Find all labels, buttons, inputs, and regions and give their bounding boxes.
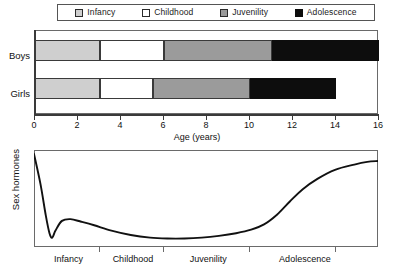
legend-swatch-adolescence bbox=[295, 9, 303, 17]
bar-segment-adolescence-boys bbox=[272, 40, 380, 61]
table-row bbox=[35, 78, 378, 99]
bar-x-axis-title: Age (years) bbox=[0, 132, 394, 142]
bar-x-tick-label: 2 bbox=[74, 120, 79, 130]
legend-item-infancy: Infancy bbox=[75, 8, 115, 17]
curve-stage-label-adolescence: Adolescence bbox=[279, 254, 331, 264]
legend-item-adolescence: Adolescence bbox=[295, 8, 357, 17]
bar-x-tick-label: 10 bbox=[244, 120, 254, 130]
legend-swatch-infancy bbox=[75, 9, 83, 17]
bar-x-tick-label: 14 bbox=[330, 120, 340, 130]
bar-segment-adolescence-girls bbox=[250, 78, 336, 99]
legend-label-juvenility: Juvenility bbox=[232, 8, 268, 17]
legend-label-childhood: Childhood bbox=[154, 8, 193, 17]
legend-item-childhood: Childhood bbox=[142, 8, 193, 17]
table-row bbox=[35, 40, 378, 61]
bar-segment-infancy-girls bbox=[35, 78, 100, 99]
curve-stage-label-infancy: Infancy bbox=[54, 254, 83, 264]
bar-segment-childhood-boys bbox=[100, 40, 165, 61]
bar-x-tick-label: 16 bbox=[373, 120, 383, 130]
curve-stage-label-childhood: Childhood bbox=[113, 254, 154, 264]
bar-x-tick-label: 12 bbox=[287, 120, 297, 130]
sex-hormone-line-chart: Sex hormones InfancyChildhoodJuvenilityA… bbox=[0, 148, 394, 273]
curve-stage-tick bbox=[335, 247, 336, 252]
curve-stage-tick bbox=[163, 247, 164, 252]
curve-y-axis-title: Sex hormones bbox=[10, 137, 21, 223]
curve-svg bbox=[34, 150, 378, 247]
hormone-curve-path bbox=[34, 154, 378, 239]
bar-segment-juvenility-girls bbox=[153, 78, 250, 99]
curve-stage-label-juvenility: Juvenility bbox=[190, 254, 227, 264]
life-stage-bar-chart: Boys Girls 0246810121416 Age (years) bbox=[0, 26, 394, 140]
curve-stage-tick bbox=[249, 247, 250, 252]
bar-category-label-boys: Boys bbox=[0, 50, 30, 61]
legend-label-adolescence: Adolescence bbox=[307, 8, 357, 17]
bar-segment-childhood-girls bbox=[100, 78, 154, 99]
bar-x-tick-label: 0 bbox=[31, 120, 36, 130]
bar-x-tick-label: 4 bbox=[117, 120, 122, 130]
bar-x-tick-label: 8 bbox=[203, 120, 208, 130]
chart-legend: Infancy Childhood Juvenility Adolescence bbox=[57, 4, 375, 21]
figure-root: Infancy Childhood Juvenility Adolescence… bbox=[0, 0, 394, 273]
legend-swatch-childhood bbox=[142, 9, 150, 17]
legend-item-juvenility: Juvenility bbox=[220, 8, 268, 17]
bar-segment-juvenility-boys bbox=[164, 40, 272, 61]
curve-stage-tick bbox=[99, 247, 100, 252]
bar-x-tick-label: 6 bbox=[160, 120, 165, 130]
bar-category-label-girls: Girls bbox=[0, 88, 30, 99]
legend-label-infancy: Infancy bbox=[87, 8, 115, 17]
bar-segment-infancy-boys bbox=[35, 40, 100, 61]
legend-swatch-juvenility bbox=[220, 9, 228, 17]
